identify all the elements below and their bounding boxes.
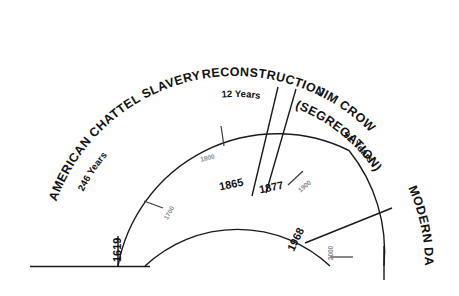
outer-arc [118, 134, 349, 266]
century-tick-1900 [288, 171, 303, 185]
century-tick-1700 [144, 201, 163, 208]
year-label-1865: 1865 [218, 176, 244, 193]
boundary-radial-1877 [266, 89, 296, 193]
century-label-1800: 1800 [200, 152, 216, 162]
century-label-1900: 1900 [297, 179, 313, 194]
era-label-modern-day: MODERN DAY [0, 0, 436, 266]
diagram-canvas: AMERICAN CHATTEL SLAVERY 246 Years RECON… [0, 0, 459, 296]
radial-timeline-svg: AMERICAN CHATTEL SLAVERY 246 Years RECON… [0, 0, 459, 296]
century-label-2000: 2000 [327, 245, 334, 260]
year-label-1619: 1619 [111, 238, 123, 262]
boundary-radial-1968 [305, 208, 392, 243]
century-label-1700: 1700 [162, 204, 175, 220]
era-duration-reconstruction: 12 Years [221, 88, 261, 101]
era-duration-jim-crow: 91 Years [341, 129, 376, 165]
year-label-1968: 1968 [285, 226, 307, 253]
year-label-1877: 1877 [258, 179, 284, 196]
era-label-slavery: AMERICAN CHATTEL SLAVERY [46, 68, 202, 203]
era-label-reconstruction: RECONSTRUCTION [201, 65, 328, 100]
